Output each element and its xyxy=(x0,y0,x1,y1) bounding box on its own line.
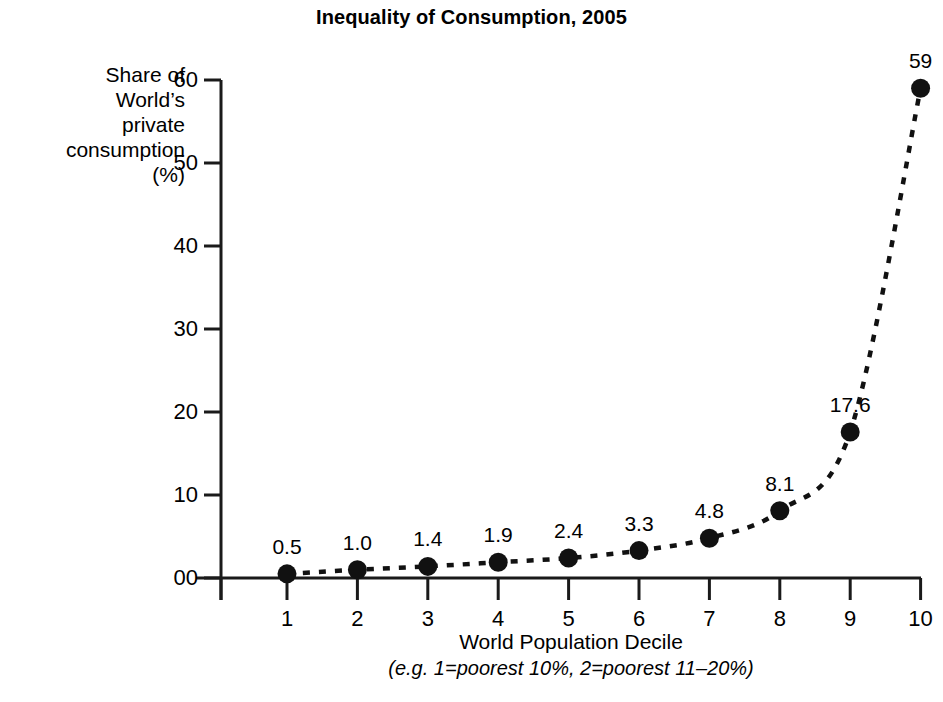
y-axis-tick-label: 20 xyxy=(144,401,198,423)
data-point-marker xyxy=(418,557,437,576)
data-point-label: 8.1 xyxy=(745,473,815,494)
data-point-label: 1.0 xyxy=(322,532,392,553)
y-axis-tick-label: 10 xyxy=(144,484,198,506)
data-point-label: 0.5 xyxy=(252,536,322,557)
data-point-label: 1.9 xyxy=(463,524,533,545)
y-axis-tick-label: 50 xyxy=(144,152,198,174)
y-axis-tick-label: 60 xyxy=(144,69,198,91)
x-axis-subtitle: (e.g. 1=poorest 10%, 2=poorest 11–20%) xyxy=(221,655,921,681)
y-axis-tick-label: 00 xyxy=(144,567,198,589)
data-point-marker xyxy=(348,560,367,579)
data-point-marker xyxy=(911,79,930,98)
data-point-label: 59 xyxy=(886,50,943,71)
y-axis-ticks xyxy=(204,80,221,578)
data-point-label: 3.3 xyxy=(604,513,674,534)
x-axis-tick-label: 5 xyxy=(544,608,594,630)
y-axis-tick-label: 40 xyxy=(144,235,198,257)
data-point-label: 2.4 xyxy=(534,520,604,541)
data-point-marker xyxy=(841,422,860,441)
data-point-marker xyxy=(700,529,719,548)
plot-area xyxy=(0,0,943,702)
x-axis-tick-label: 10 xyxy=(896,608,943,630)
data-series-line xyxy=(287,88,921,574)
x-axis-tick-label: 6 xyxy=(614,608,664,630)
x-axis-tick-label: 2 xyxy=(332,608,382,630)
y-axis-tick-label: 30 xyxy=(144,318,198,340)
x-axis-ticks xyxy=(221,578,921,600)
data-point-label: 4.8 xyxy=(674,500,744,521)
data-point-marker xyxy=(559,549,578,568)
x-axis-tick-label: 1 xyxy=(262,608,312,630)
data-series-markers xyxy=(278,79,931,584)
x-axis-tick-label: 9 xyxy=(825,608,875,630)
x-axis-tick-label: 4 xyxy=(473,608,523,630)
x-axis-title: World Population Decile xyxy=(221,629,921,655)
chart-figure: Inequality of Consumption, 2005 Share of… xyxy=(0,0,943,702)
data-point-label: 17.6 xyxy=(815,394,885,415)
x-axis-tick-label: 3 xyxy=(403,608,453,630)
data-point-marker xyxy=(770,501,789,520)
data-point-marker xyxy=(489,553,508,572)
x-axis-tick-label: 7 xyxy=(684,608,734,630)
x-axis-title-block: World Population Decile (e.g. 1=poorest … xyxy=(221,629,921,681)
x-axis-tick-label: 8 xyxy=(755,608,805,630)
data-point-label: 1.4 xyxy=(393,528,463,549)
data-point-marker xyxy=(630,541,649,560)
data-point-marker xyxy=(278,564,297,583)
